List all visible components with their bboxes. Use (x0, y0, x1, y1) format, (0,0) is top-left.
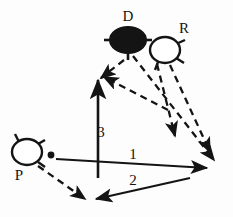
node-R-label: R (179, 20, 189, 36)
dashed-ray-d-down-right (133, 56, 214, 160)
figure-canvas: D R P 1 2 3 (0, 0, 233, 217)
node-D: D (104, 8, 152, 60)
node-P-label: P (15, 167, 23, 183)
vector-1-label: 1 (129, 146, 137, 162)
node-P-body (12, 139, 42, 165)
dashed-ray-p-down-right (38, 166, 85, 199)
vector-3-label: 3 (97, 124, 105, 140)
node-D-label: D (123, 8, 134, 24)
diagram-svg: D R P 1 2 3 (0, 0, 233, 217)
vector-2-label: 2 (129, 172, 137, 188)
vector-2-line (96, 178, 190, 199)
origin-dot (48, 152, 55, 159)
node-D-body (110, 27, 146, 53)
dashed-ray-r-down-far (170, 65, 210, 152)
node-P: P (12, 134, 45, 183)
dashed-ray-d-up-left (101, 60, 124, 78)
node-R: R (150, 20, 189, 70)
dashed-ray-spacer (106, 72, 150, 79)
node-R-body (150, 37, 180, 63)
dashed-ray-upleft-long (104, 77, 168, 110)
dashed-ray-r-down-mid (157, 64, 175, 136)
